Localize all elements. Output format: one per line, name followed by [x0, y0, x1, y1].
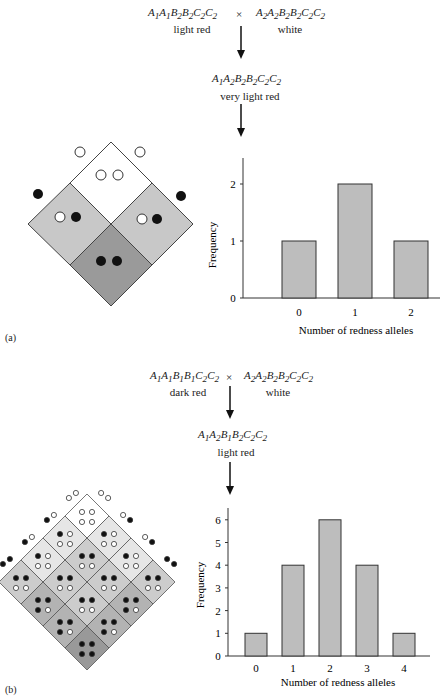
- panel-a-parent1-phenotype: light red: [162, 23, 222, 35]
- bar-2: [319, 520, 341, 656]
- svg-text:1: 1: [352, 306, 358, 318]
- svg-text:2: 2: [215, 605, 221, 617]
- svg-text:Frequency: Frequency: [206, 221, 218, 268]
- panel-b-cross-symbol: ×: [226, 371, 232, 383]
- svg-text:0: 0: [253, 662, 259, 674]
- bar-1: [338, 184, 372, 298]
- arrow-down-icon: [235, 104, 247, 138]
- panel-a-parent2-phenotype: white: [270, 23, 310, 35]
- bar-0: [282, 241, 316, 298]
- svg-text:1: 1: [215, 627, 221, 639]
- panel-b-parent1-phenotype: dark red: [158, 386, 218, 398]
- punnett-diamond-b: [0, 480, 200, 697]
- svg-text:4: 4: [215, 559, 221, 571]
- svg-text:2: 2: [230, 178, 236, 190]
- arrow-down-icon: [224, 462, 236, 496]
- svg-text:0: 0: [296, 306, 302, 318]
- svg-text:1: 1: [230, 235, 236, 247]
- panel-b-parent1-genotype: A1A1B1B1C2C2: [150, 369, 219, 384]
- panel-b-parent2-genotype: A2A2B2B2C2C2: [244, 369, 313, 384]
- panel-b-f1-genotype: A1A2B1B2C2C2: [198, 428, 267, 443]
- svg-text:6: 6: [215, 514, 221, 526]
- panel-a-label: (a): [5, 332, 16, 343]
- svg-text:2: 2: [408, 306, 414, 318]
- arrow-down-icon: [224, 386, 236, 420]
- panel-a-f1-genotype: A1A2B2B2C2C2: [212, 72, 281, 87]
- svg-text:3: 3: [364, 662, 370, 674]
- bar-2: [394, 241, 428, 298]
- panel-b-parent2-phenotype: white: [258, 386, 298, 398]
- arrow-down-icon: [235, 26, 247, 60]
- panel-a-parent1-genotype: A1A1B2B2C2C2: [148, 6, 217, 21]
- bar-1: [282, 565, 304, 656]
- punnett-diamond-a: [0, 130, 210, 330]
- svg-text:Number of redness alleles: Number of redness alleles: [281, 676, 396, 688]
- histogram-b: 0123456 01234 Number of redness alleles …: [190, 500, 443, 697]
- bar-0: [245, 633, 267, 656]
- bar-4: [393, 633, 415, 656]
- panel-a-parent2-genotype: A2A2B2B2C2C2: [256, 6, 325, 21]
- panel-a-cross-symbol: ×: [236, 8, 242, 20]
- svg-text:1: 1: [290, 662, 296, 674]
- histogram-a: 0 1 2 0 1 2 Number of redness alleles Fr…: [200, 150, 443, 340]
- svg-text:0: 0: [215, 650, 221, 662]
- panel-b-f1-phenotype: light red: [206, 446, 266, 458]
- svg-text:5: 5: [215, 537, 221, 549]
- panel-a-f1-phenotype: very light red: [212, 90, 288, 102]
- svg-text:0: 0: [230, 292, 236, 304]
- svg-text:Number of redness alleles: Number of redness alleles: [299, 324, 414, 336]
- svg-text:Frequency: Frequency: [194, 561, 206, 608]
- svg-text:3: 3: [215, 582, 221, 594]
- bar-3: [356, 565, 378, 656]
- svg-text:2: 2: [327, 662, 333, 674]
- panel-b-label: (b): [5, 684, 17, 695]
- svg-text:4: 4: [401, 662, 407, 674]
